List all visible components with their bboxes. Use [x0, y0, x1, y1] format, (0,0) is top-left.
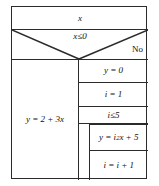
loop-statement-2: i = i + 1: [90, 151, 148, 179]
structogram-diagram: x x≤0 No y = 2 + 3x y = 0 i = 1 i≤5 y = …: [11, 6, 147, 179]
loop-statement-1-suffix: x + 5: [119, 133, 138, 142]
loop-condition-label: i≤5: [79, 107, 148, 124]
false-branch-statement-2: i = 1: [79, 83, 148, 107]
loop-statement-1-prefix: y = i: [99, 133, 116, 142]
false-branch-statement-1: y = 0: [79, 59, 148, 83]
condition-block: x≤0 No: [12, 30, 148, 60]
condition-false-label: No: [132, 45, 143, 54]
condition-label: x≤0: [12, 32, 148, 41]
true-branch-statement: y = 2 + 3x: [12, 59, 79, 180]
loop-body: y = i2x + 5 i = i + 1: [89, 124, 148, 180]
loop-statement-1: y = i2x + 5: [90, 125, 148, 151]
input-block: x: [12, 7, 148, 30]
while-loop-block: i≤5 y = i2x + 5 i = i + 1: [79, 107, 148, 180]
false-branch-column: y = 0 i = 1 i≤5 y = i2x + 5 i = i + 1: [79, 59, 148, 180]
